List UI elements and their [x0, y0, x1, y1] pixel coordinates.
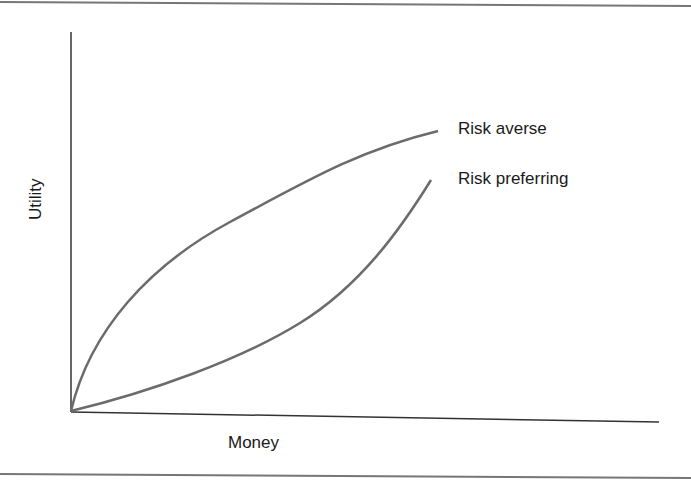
utility-diagram	[0, 0, 691, 489]
bottom-border	[0, 474, 691, 478]
y-axis-label: Utility	[26, 178, 46, 220]
risk-preferring-label: Risk preferring	[458, 169, 569, 189]
x-axis-label: Money	[228, 433, 279, 453]
risk-averse-curve	[71, 131, 438, 411]
risk-preferring-curve	[71, 180, 431, 411]
risk-averse-label: Risk averse	[458, 119, 547, 139]
top-border	[0, 2, 691, 6]
x-axis	[71, 412, 659, 422]
